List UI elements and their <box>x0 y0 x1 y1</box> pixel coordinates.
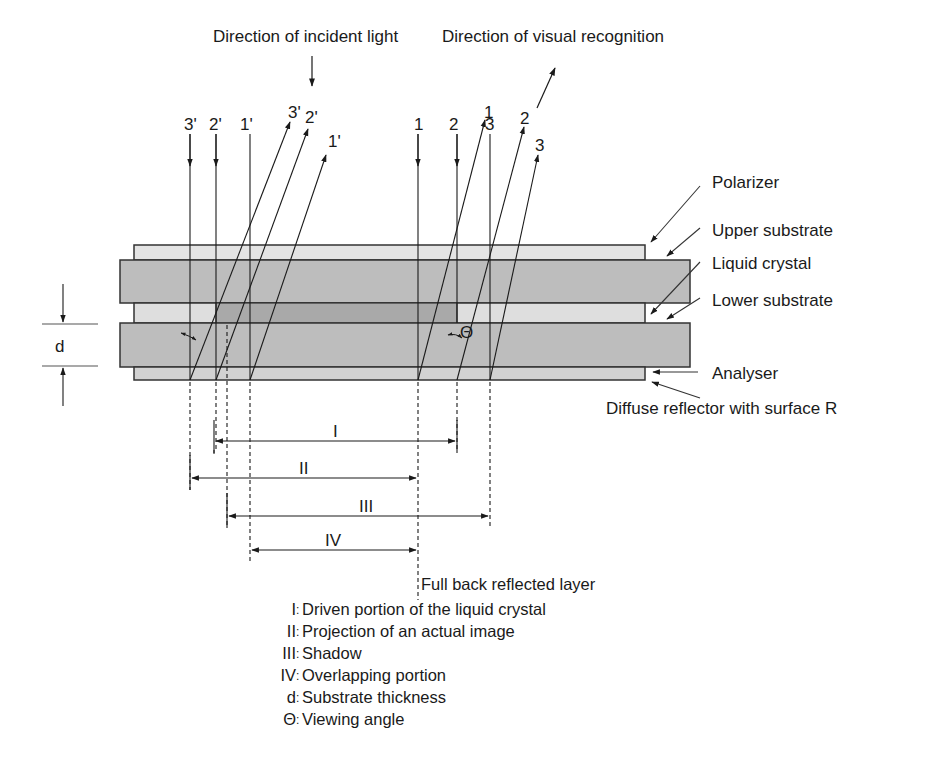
legend-item-theta: Θ:Viewing angle <box>252 708 546 730</box>
liquid-crystal-label: Liquid crystal <box>712 254 811 273</box>
layer-stack <box>120 245 690 380</box>
visual-recognition-arrow <box>537 68 555 108</box>
legend-item-IV: IV:Overlapping portion <box>252 664 546 686</box>
legend: I:Driven portion of the liquid crystal I… <box>252 598 546 730</box>
upper-substrate-layer <box>120 260 690 303</box>
label-reflected-1p: 1' <box>328 132 341 151</box>
dimension-lines: I II III IV <box>190 420 488 550</box>
upper-substrate-label: Upper substrate <box>712 221 833 240</box>
dimension-IV-label: IV <box>325 531 342 550</box>
theta-symbol: Θ <box>460 323 473 342</box>
dimension-I-label: I <box>333 422 338 441</box>
label-reflected-2p: 2' <box>305 108 318 127</box>
label-reflected-3p: 3' <box>288 103 301 122</box>
polarizer-label: Polarizer <box>712 173 779 192</box>
visual-recognition-title: Direction of visual recognition <box>442 27 664 46</box>
label-reflected-1: 1 <box>484 103 493 122</box>
lower-substrate-layer <box>120 323 690 367</box>
label-incident-3p: 3' <box>184 115 197 134</box>
legend-item-d: d:Substrate thickness <box>252 686 546 708</box>
analyser-label: Analyser <box>712 364 778 383</box>
label-reflected-2: 2 <box>520 109 529 128</box>
lower-substrate-label: Lower substrate <box>712 291 833 310</box>
label-reflected-3: 3 <box>535 136 544 155</box>
polarizer-layer <box>134 245 645 260</box>
legend-item-II: II:Projection of an actual image <box>252 620 546 642</box>
label-incident-2: 2 <box>449 115 458 134</box>
label-incident-2p: 2' <box>209 115 222 134</box>
label-incident-1p: 1' <box>240 115 253 134</box>
full-back-reflected-layer-label: Full back reflected layer <box>421 575 595 594</box>
dimension-III-label: III <box>359 497 373 516</box>
analyser-layer <box>134 367 645 380</box>
legend-item-III: III:Shadow <box>252 642 546 664</box>
diffuse-reflector-label: Diffuse reflector with surface R <box>606 399 837 418</box>
label-incident-1: 1 <box>414 115 423 134</box>
thickness-symbol: d <box>55 337 64 356</box>
dimension-II-label: II <box>299 459 308 478</box>
thickness-marker: d <box>42 284 98 406</box>
incident-light-title: Direction of incident light <box>213 27 398 46</box>
driven-liquid-crystal-portion <box>216 303 457 323</box>
legend-item-I: I:Driven portion of the liquid crystal <box>252 598 546 620</box>
